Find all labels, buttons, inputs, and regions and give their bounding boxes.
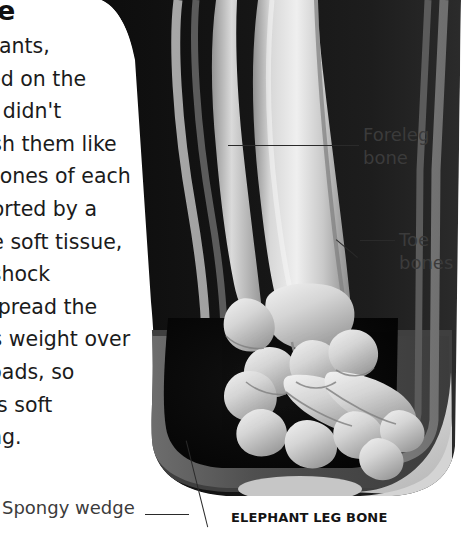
figure-caption: ELEPHANT LEG BONE [231, 510, 387, 525]
body-line: across soft [0, 389, 138, 422]
article-body: elephants, walked on the but it didn't s… [0, 30, 138, 454]
body-line: imal's weight over [0, 323, 138, 356]
leader-line-toe [360, 240, 395, 241]
body-line: foot pads, so [0, 356, 138, 389]
illustration-page: toe elephants, walked on the but it didn… [0, 0, 461, 538]
body-line: sinking. [0, 421, 138, 454]
label-foreleg-bone: Foreleg bone [363, 123, 429, 169]
label-toe-line1: Toe [399, 228, 453, 251]
body-line: walked on the [0, 63, 138, 96]
leader-line-foreleg [228, 145, 359, 146]
label-foreleg-line2: bone [363, 146, 429, 169]
body-line: but it didn't [0, 95, 138, 128]
body-line: supported by a [0, 193, 138, 226]
body-line: The bones of each [0, 160, 138, 193]
body-line: as a shock [0, 258, 138, 291]
label-toe-bones: Toe bones [399, 228, 453, 274]
label-toe-line2: bones [399, 251, 453, 274]
body-line: squash them like [0, 128, 138, 161]
body-line: and spread the [0, 291, 138, 324]
leader-line-spongy [145, 514, 189, 515]
label-foreleg-line1: Foreleg [363, 123, 429, 146]
page-title: toe [0, 0, 15, 26]
body-line: elephants, [0, 30, 138, 63]
body-line: dense soft tissue, [0, 226, 138, 259]
label-spongy-wedge: Spongy wedge [2, 496, 135, 519]
article-text-column: toe elephants, walked on the but it didn… [0, 0, 132, 420]
